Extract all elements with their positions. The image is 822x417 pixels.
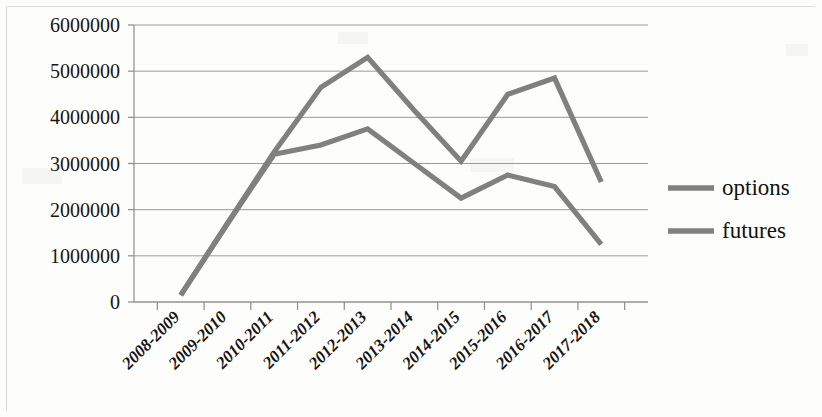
y-axis-tick-label: 6000000 — [50, 14, 120, 36]
x-axis-tick-labels: 2008-20092009-20102010-20112011-20122012… — [117, 306, 604, 373]
data-series — [181, 57, 602, 295]
legend-label-futures: futures — [722, 218, 786, 243]
chart-page: 0100000020000003000000400000050000006000… — [0, 0, 822, 417]
series-line-options — [181, 57, 602, 295]
chart-area: 0100000020000003000000400000050000006000… — [0, 0, 822, 417]
y-axis-tick-label: 5000000 — [50, 60, 120, 82]
x-axis-tick-marks — [157, 302, 624, 310]
chart-legend: optionsfutures — [668, 175, 790, 243]
y-axis-tick-label: 3000000 — [50, 153, 120, 175]
line-chart: 0100000020000003000000400000050000006000… — [0, 0, 822, 417]
series-line-futures — [181, 129, 602, 295]
y-axis-tick-label: 1000000 — [50, 245, 120, 267]
y-axis-tick-label: 0 — [110, 291, 120, 313]
legend-label-options: options — [722, 175, 790, 200]
y-axis-tick-labels: 0100000020000003000000400000050000006000… — [50, 14, 134, 313]
y-axis-tick-label: 4000000 — [50, 106, 120, 128]
gridlines — [134, 25, 648, 302]
y-axis-tick-label: 2000000 — [50, 199, 120, 221]
